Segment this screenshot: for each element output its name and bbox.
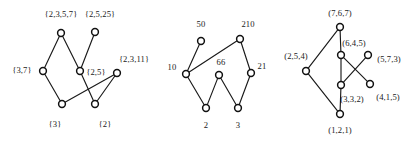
graph-node[interactable] bbox=[114, 70, 121, 77]
graph-node-label: {2,5,25} bbox=[85, 10, 116, 19]
graph-node[interactable] bbox=[203, 105, 210, 112]
graph-node[interactable] bbox=[92, 101, 99, 108]
graph-edge bbox=[239, 76, 250, 105]
graph-node[interactable] bbox=[338, 52, 345, 59]
graph-node[interactable] bbox=[337, 111, 344, 118]
graph-node[interactable] bbox=[237, 36, 244, 43]
graph-edge bbox=[340, 30, 341, 51]
figure-canvas: {2,3,5,7}{2,5,25}{3,7}{2,5}{2,3,11}{3}{2… bbox=[0, 0, 417, 142]
graph-node-label: {3,7} bbox=[12, 66, 32, 75]
graph-svg-layer bbox=[0, 0, 417, 142]
graph-node[interactable] bbox=[58, 30, 65, 37]
graph-node-label: 50 bbox=[197, 20, 206, 29]
graph-node[interactable] bbox=[303, 68, 310, 75]
graph-node[interactable] bbox=[367, 81, 374, 88]
graph-node[interactable] bbox=[216, 72, 223, 79]
graph-node[interactable] bbox=[77, 68, 84, 75]
graph-node[interactable] bbox=[40, 68, 47, 75]
graph-node[interactable] bbox=[337, 24, 344, 31]
graph-node-label: 66 bbox=[217, 58, 226, 67]
graph-node[interactable] bbox=[248, 70, 255, 77]
graph-edge bbox=[308, 30, 338, 69]
graph-node-label: (4,1,5) bbox=[376, 93, 400, 102]
graph-node-label: (2,5,4) bbox=[284, 52, 308, 61]
graph-edge bbox=[44, 36, 59, 68]
graph-node-label: 10 bbox=[168, 63, 177, 72]
graph-node[interactable] bbox=[235, 105, 242, 112]
graph-node-label: 210 bbox=[241, 20, 254, 29]
graph-node-label: (3,3,2) bbox=[340, 95, 364, 104]
graph-node[interactable] bbox=[183, 71, 190, 78]
graph-node[interactable] bbox=[59, 101, 66, 108]
graph-edge bbox=[188, 77, 205, 105]
graph-node-label: (6,4,5) bbox=[342, 39, 366, 48]
graph-edge bbox=[81, 35, 94, 68]
graph-edge bbox=[63, 36, 79, 68]
graph-node-label: (7,6,7) bbox=[328, 9, 352, 18]
graph-edge bbox=[241, 42, 250, 70]
graph-node-label: (1,2,1) bbox=[328, 126, 352, 135]
graph-node[interactable] bbox=[198, 38, 205, 45]
graph-node-label: {2,3,5,7} bbox=[45, 10, 78, 19]
graph-node[interactable] bbox=[338, 82, 345, 89]
graph-node-label: (5,7,3) bbox=[377, 55, 401, 64]
graph-node-label: {2,5} bbox=[86, 68, 106, 77]
graph-edge bbox=[221, 78, 237, 105]
graph-node-label: {3} bbox=[49, 120, 62, 129]
graph-node-label: 21 bbox=[258, 62, 267, 71]
graph-node[interactable] bbox=[365, 52, 372, 59]
graph-node-label: {2,3,11} bbox=[119, 55, 149, 64]
graph-node-label: {2} bbox=[99, 120, 112, 129]
graph-node-label: 2 bbox=[204, 121, 208, 130]
graph-edge bbox=[45, 74, 61, 101]
graph-node[interactable] bbox=[92, 29, 99, 36]
graph-edge bbox=[207, 78, 218, 105]
graph-edge bbox=[308, 74, 338, 112]
graph-edge bbox=[189, 41, 237, 72]
graph-node-label: 3 bbox=[236, 121, 240, 130]
